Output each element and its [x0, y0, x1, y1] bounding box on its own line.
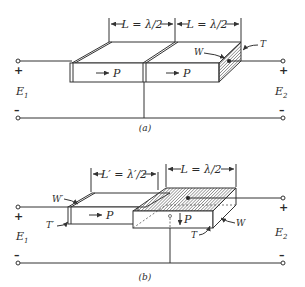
- dimension-a: L = λ/2 L = λ/2: [109, 18, 241, 42]
- polarization-label-b-left: P: [105, 209, 114, 222]
- terminal-input-plus-a: [16, 59, 20, 63]
- polarization-label-a-right: P: [182, 67, 191, 80]
- label-W-a: W: [194, 47, 204, 57]
- terminal-input-plus-b: [16, 205, 20, 209]
- minus-sign-input-b: –: [14, 249, 20, 262]
- dim-left-label-a: L = λ/2: [120, 18, 162, 31]
- label-T-prime-b: T′: [46, 220, 54, 230]
- panel-a: L = λ/2 L = λ/2 P P: [14, 18, 288, 133]
- piezoelectric-transformer-diagram: L = λ/2 L = λ/2 P P: [0, 0, 305, 287]
- label-T-b: T: [191, 230, 198, 240]
- plus-sign-input-b: +: [14, 210, 23, 223]
- output-voltage-label-a: E2: [274, 85, 288, 100]
- label-W-prime-b: W′: [52, 194, 63, 204]
- caption-a: (a): [139, 123, 152, 133]
- terminal-output-plus-b: [281, 196, 285, 200]
- output-voltage-label-b: E2: [274, 226, 288, 241]
- minus-sign-output-b: –: [279, 249, 285, 262]
- plus-sign-output-b: +: [279, 201, 288, 214]
- panel-b: L′ = λ′/2 L = λ/2 P P: [14, 163, 288, 282]
- transducer-bar-a: P P: [70, 42, 241, 82]
- minus-sign-input-a: –: [14, 104, 20, 117]
- input-voltage-label-b: E1: [15, 230, 29, 245]
- dim-left-label-b: L′ = λ′/2: [100, 168, 147, 181]
- polarization-label-b-right: P: [183, 213, 192, 226]
- minus-sign-output-a: –: [279, 104, 285, 117]
- label-T-a: T: [260, 39, 267, 49]
- polarization-label-a-left: P: [112, 67, 121, 80]
- terminal-output-plus-a: [281, 59, 285, 63]
- label-W-b: W: [236, 218, 246, 228]
- plus-sign-output-a: +: [279, 64, 288, 77]
- dim-right-label-a: L = λ/2: [185, 18, 227, 31]
- input-voltage-label-a: E1: [15, 85, 29, 100]
- caption-b: (b): [139, 272, 152, 282]
- plus-sign-input-a: +: [14, 64, 23, 77]
- dim-right-label-b: L = λ/2: [179, 163, 221, 176]
